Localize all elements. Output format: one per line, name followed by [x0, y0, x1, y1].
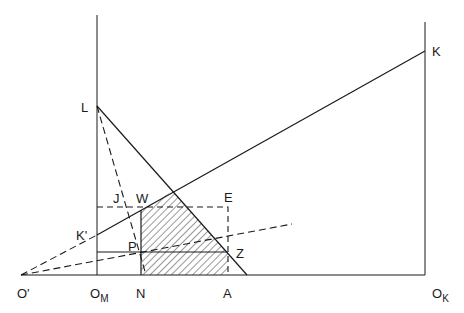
- diagram-canvas: L K K' J W E P Z O' OM N A OK: [0, 0, 464, 313]
- label-k: K: [432, 44, 441, 59]
- label-o-m: OM: [90, 286, 108, 304]
- label-j: J: [113, 191, 120, 206]
- label-e: E: [224, 190, 233, 205]
- label-w: W: [136, 191, 149, 206]
- label-n: N: [136, 286, 145, 301]
- line-k-prime-k: [97, 51, 425, 235]
- label-z: Z: [236, 246, 244, 261]
- label-p: P: [128, 239, 137, 254]
- label-k-prime: K': [76, 228, 87, 243]
- label-a: A: [223, 286, 232, 301]
- label-o-prime: O': [17, 286, 30, 301]
- label-o-k: OK: [432, 286, 449, 304]
- label-l: L: [81, 100, 88, 115]
